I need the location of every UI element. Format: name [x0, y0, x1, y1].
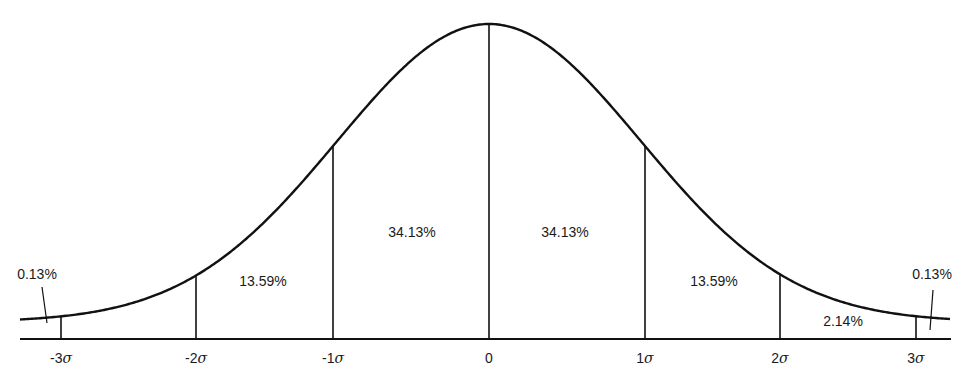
x-tick-minus-2-sigma: -2σ [185, 350, 207, 366]
x-tick-zero: 0 [485, 350, 493, 366]
x-tick-plus-1-sigma: 1σ [636, 350, 653, 366]
bell-curve [20, 24, 950, 319]
region-label-right-tail: 0.13% [912, 266, 952, 282]
sigma-divider-lines [61, 24, 916, 339]
region-label-right-1sigma: 34.13% [541, 224, 588, 240]
region-label-right-3sigma: 2.14% [823, 313, 863, 329]
region-label-left-tail: 0.13% [17, 266, 57, 282]
region-label-left-1sigma: 34.13% [388, 224, 435, 240]
x-tick-minus-1-sigma: -1σ [322, 350, 344, 366]
x-tick-plus-3-sigma: 3σ [907, 350, 924, 366]
region-label-left-2sigma: 13.59% [239, 273, 286, 289]
x-tick-plus-2-sigma: 2σ [771, 350, 788, 366]
x-tick-minus-3-sigma: -3σ [50, 350, 72, 366]
right-tail-pointer [930, 290, 933, 330]
region-label-right-2sigma: 13.59% [690, 273, 737, 289]
